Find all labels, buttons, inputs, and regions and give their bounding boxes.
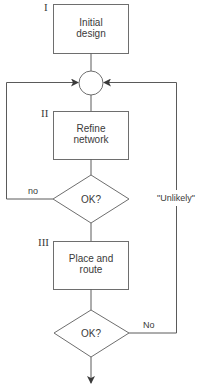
step-numeral: I <box>44 1 48 13</box>
flowchart: I Initial design no "Unlikely" No II Ref… <box>0 0 202 388</box>
merge-node <box>79 71 103 95</box>
step-label-line1: Refine <box>77 123 106 134</box>
step-initial-design: I Initial design <box>44 1 129 54</box>
decision-label: OK? <box>81 328 101 339</box>
step-refine-network: II Refine network <box>41 107 129 160</box>
decision-ok-1: OK? <box>53 175 129 223</box>
step-label-line2: network <box>73 134 109 145</box>
step-numeral: III <box>38 236 49 248</box>
step-label-line1: Place and <box>69 253 113 264</box>
branch-label-No: No <box>143 320 155 330</box>
decision-ok-2: OK? <box>54 310 129 357</box>
step-place-and-route: III Place and route <box>38 236 129 290</box>
step-label-line2: route <box>80 264 103 275</box>
step-label-line2: design <box>76 28 105 39</box>
branch-label-no: no <box>28 186 38 196</box>
decision-label: OK? <box>81 194 101 205</box>
step-numeral: II <box>41 107 49 119</box>
feedback-label-unlikely: "Unlikely" <box>157 193 195 203</box>
loop-back-line-right-lower <box>129 206 177 333</box>
step-label-line1: Initial <box>79 17 102 28</box>
